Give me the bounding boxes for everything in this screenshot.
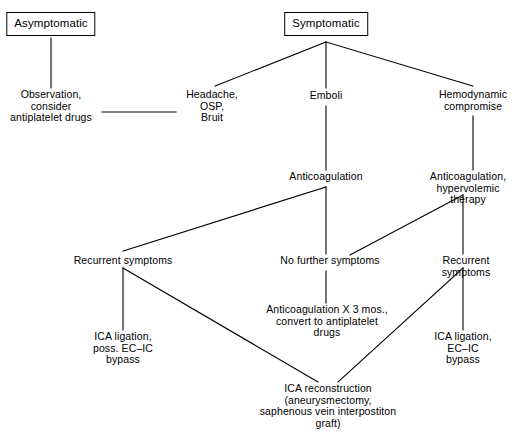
- edge-symptomatic-hemodynamic: [326, 42, 473, 86]
- flowchart-canvas: Asymptomatic Symptomatic Observation, co…: [0, 0, 522, 434]
- node-recurrent-symptoms-left[interactable]: Recurrent symptoms: [74, 255, 173, 267]
- node-ica-ligation-poss-ecic-bypass[interactable]: ICA ligation, poss. EC–IC bypass: [93, 331, 153, 366]
- node-anticoagulation[interactable]: Anticoagulation: [289, 171, 362, 183]
- node-emboli[interactable]: Emboli: [310, 90, 343, 102]
- node-anticoagulation-hypervolemic-therapy[interactable]: Anticoagulation, hypervolemic therapy: [430, 171, 506, 206]
- node-recurrent-symptoms-right[interactable]: Recurrent symptoms: [438, 255, 494, 278]
- node-anticoagulation-3-months[interactable]: Anticoagulation X 3 mos., convert to ant…: [266, 304, 388, 339]
- edge-symptomatic-headache: [215, 42, 326, 86]
- edge-anticoagulation-recurrent-left: [123, 187, 326, 251]
- flowchart-edges: [0, 0, 522, 434]
- node-observation[interactable]: Observation, consider antiplatelet drugs: [10, 89, 92, 124]
- node-headache-osp-bruit[interactable]: Headache, OSP, Bruit: [186, 89, 238, 124]
- node-hemodynamic-compromise[interactable]: Hemodynamic compromise: [439, 89, 507, 112]
- node-asymptomatic[interactable]: Asymptomatic: [6, 12, 95, 36]
- node-ica-ligation-ecic-bypass[interactable]: ICA ligation, EC–IC bypass: [434, 331, 493, 366]
- node-symptomatic[interactable]: Symptomatic: [284, 12, 368, 36]
- node-no-further-symptoms[interactable]: No further symptoms: [280, 255, 379, 267]
- node-ica-reconstruction[interactable]: ICA reconstruction (aneurysmectomy, saph…: [260, 383, 396, 429]
